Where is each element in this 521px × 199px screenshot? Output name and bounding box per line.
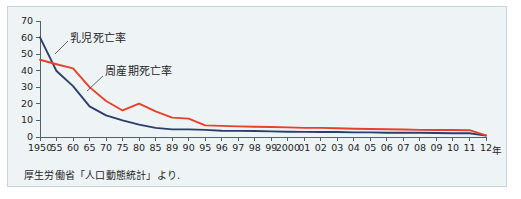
y-tick-label: 60 xyxy=(8,33,33,43)
x-tick-label: 10 xyxy=(445,143,460,153)
figure-frame: 010203040506070 195055606570758085899095… xyxy=(7,6,507,187)
y-tick-label: 70 xyxy=(8,16,33,26)
y-tick-label: 50 xyxy=(8,49,33,59)
y-tick-label: 20 xyxy=(8,99,33,109)
x-tick-label: 55 xyxy=(49,143,64,153)
x-tick-label: 80 xyxy=(132,143,147,153)
y-tick-label: 40 xyxy=(8,66,33,76)
series-annotation-infant-mortality: 乳児死亡率 xyxy=(70,33,127,44)
y-tick-label: 0 xyxy=(8,132,33,142)
x-tick-label: 06 xyxy=(379,143,394,153)
chart-page: 010203040506070 195055606570758085899095… xyxy=(0,0,521,199)
x-tick-label: 07 xyxy=(396,143,411,153)
x-tick-label: 05 xyxy=(363,143,378,153)
x-tick-label: 11 xyxy=(462,143,477,153)
leader-line-infant-mortality xyxy=(55,41,68,54)
series-group xyxy=(40,37,486,135)
y-tick-label: 10 xyxy=(8,115,33,125)
x-tick-label: 85 xyxy=(148,143,163,153)
x-tick-label: 75 xyxy=(115,143,130,153)
x-tick-label: 08 xyxy=(412,143,427,153)
x-tick-label: 03 xyxy=(330,143,345,153)
series-line-infant-mortality xyxy=(40,37,486,135)
x-tick-label: 90 xyxy=(181,143,196,153)
y-tick-label: 30 xyxy=(8,82,33,92)
x-tick-label: 60 xyxy=(66,143,81,153)
x-tick-label: 89 xyxy=(165,143,180,153)
x-tick-label: 95 xyxy=(198,143,213,153)
x-tick-label: 98 xyxy=(247,143,262,153)
leader-line-perinatal-mortality xyxy=(87,76,103,91)
series-annotation-perinatal-mortality: 周産期死亡率 xyxy=(105,66,173,77)
x-tick-label: 97 xyxy=(231,143,246,153)
x-tick-label: 65 xyxy=(82,143,97,153)
x-tick-label: 01 xyxy=(297,143,312,153)
x-tick-label: 02 xyxy=(313,143,328,153)
source-note: 厚生労働省「人口動態統計」より. xyxy=(24,167,180,182)
x-tick-label: 09 xyxy=(429,143,444,153)
x-axis-unit-label: 年 xyxy=(492,143,502,157)
x-tick-label: 70 xyxy=(99,143,114,153)
x-tick-label: 96 xyxy=(214,143,229,153)
x-tick-label: 04 xyxy=(346,143,361,153)
